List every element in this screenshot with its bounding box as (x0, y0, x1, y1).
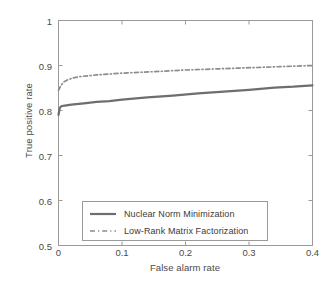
legend-item-low-rank-matrix-factorization: Low-Rank Matrix Factorization (83, 222, 267, 239)
legend-solid-line-sample (89, 209, 117, 219)
roc-chart-figure: True positive rate False alarm rate 0.50… (0, 0, 335, 281)
legend-label: Nuclear Norm Minimization (124, 209, 235, 219)
legend-item-nuclear-norm-minimization: Nuclear Norm Minimization (83, 205, 267, 222)
legend-label: Low-Rank Matrix Factorization (124, 226, 248, 236)
series-line-1 (59, 85, 313, 115)
legend-dashdot-line-sample (89, 226, 117, 236)
data-series-group (59, 66, 313, 116)
legend-box: Nuclear Norm Minimization Low-Rank Matri… (82, 201, 268, 241)
